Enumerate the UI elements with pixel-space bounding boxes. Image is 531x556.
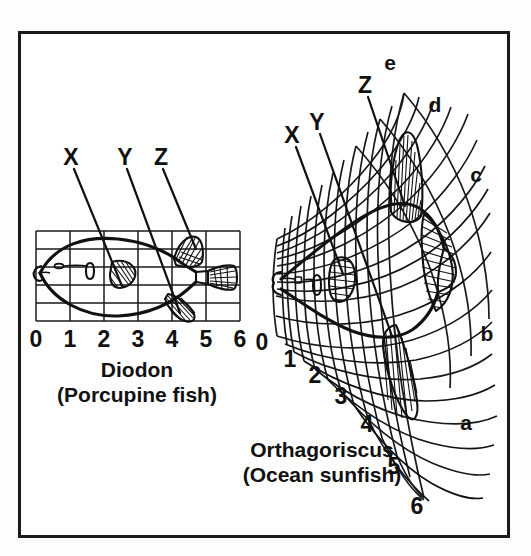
orthagoriscus-caption-name: Orthagoriscus <box>250 438 394 461</box>
diodon-axis-tick-5: 5 <box>200 326 213 352</box>
orthagoriscus-row-label-e: e <box>384 51 396 74</box>
diodon-axis-tick-2: 2 <box>98 326 111 352</box>
diodon-leader-x <box>74 169 122 286</box>
orthagoriscus-label-x: X <box>284 122 300 148</box>
diodon-dorsal-fin <box>174 237 203 267</box>
orthagoriscus-label-y: Y <box>309 109 324 135</box>
figure-page: 0 1 2 3 4 5 6 X Y Z Diodon (Porcupine <box>0 0 531 556</box>
orthagoriscus-axis-tick-1: 1 <box>284 346 297 372</box>
orthagoriscus-row-label-c: c <box>470 163 482 186</box>
diodon-label-y: Y <box>117 144 132 170</box>
figure-canvas: 0 1 2 3 4 5 6 X Y Z Diodon (Porcupine <box>0 0 531 556</box>
diodon-label-x: X <box>63 144 79 170</box>
diodon-grid <box>36 231 240 321</box>
orthagoriscus-pointer-labels: X Y Z <box>284 72 372 148</box>
orthagoriscus-caption-common: (Ocean sunfish) <box>243 463 402 486</box>
orthagoriscus-row-label-b: b <box>481 322 494 345</box>
diodon-axis-tick-3: 3 <box>132 326 145 352</box>
orthagoriscus-axis-tick-4: 4 <box>361 411 374 437</box>
diodon-anal-fin <box>165 294 195 322</box>
diodon-head-details <box>55 263 95 279</box>
diodon-axis-tick-6: 6 <box>234 326 247 352</box>
orthagoriscus-axis-tick-2: 2 <box>309 362 322 388</box>
diodon-caption-name: Diodon <box>101 358 173 381</box>
orthagoriscus-axis-tick-0: 0 <box>256 329 269 355</box>
diodon-axis-tick-0: 0 <box>30 326 43 352</box>
diodon-axis-tick-4: 4 <box>166 326 179 352</box>
orthagoriscus-figure: 0 1 2 3 4 5 6 a b c d e <box>243 51 497 519</box>
orthagoriscus-axis-tick-6: 6 <box>411 493 424 519</box>
diodon-axis-labels: 0 1 2 3 4 5 6 <box>30 326 247 352</box>
diodon-tail <box>196 265 237 290</box>
orthagoriscus-label-z: Z <box>358 72 372 98</box>
orthagoriscus-row-label-a: a <box>460 411 472 434</box>
orthagoriscus-row-label-d: d <box>429 93 442 116</box>
orthagoriscus-axis-tick-3: 3 <box>335 383 348 409</box>
diodon-leader-z <box>163 169 196 249</box>
diodon-pointer-labels: X Y Z <box>63 144 168 170</box>
diodon-caption-common: (Porcupine fish) <box>57 383 217 406</box>
diodon-axis-tick-1: 1 <box>64 326 77 352</box>
diodon-label-z: Z <box>154 144 168 170</box>
diodon-figure: 0 1 2 3 4 5 6 X Y Z Diodon (Porcupine <box>30 144 247 406</box>
